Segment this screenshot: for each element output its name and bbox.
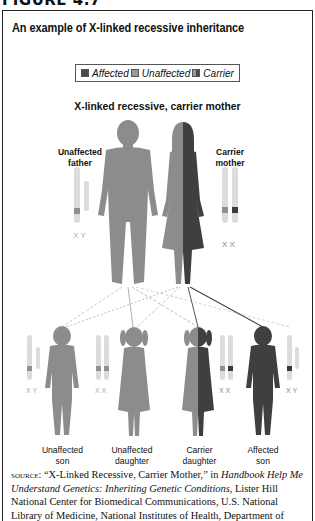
unaffected-son-figure	[45, 326, 79, 435]
unaffected-daughter-chromosomes	[96, 335, 109, 380]
affected-son-chromosomes	[287, 335, 299, 380]
child-label-unaffected-daughter: Unaffecteddaughter	[105, 444, 159, 466]
mother-label: Carriermother	[212, 146, 248, 168]
father-figure	[98, 120, 158, 284]
son1-chromosome-label: X Y	[26, 387, 37, 394]
source-quote: “X-Linked Recessive, Carrier Mother,” in	[41, 469, 221, 480]
father-chromosomes	[74, 167, 89, 223]
mother-figure	[162, 122, 204, 284]
child-label-carrier-daughter: Carrierdaughter	[175, 444, 225, 466]
child-label-unaffected-son: Unaffectedson	[38, 444, 88, 466]
father-chromosome-label: X Y	[73, 231, 86, 240]
carrier-daughter-chromosomes	[220, 335, 233, 380]
father-label: Unaffectedfather	[58, 146, 103, 168]
daughter2-chromosome-label: X X	[219, 387, 231, 394]
source-citation: source: “X-Linked Recessive, Carrier Mot…	[11, 468, 311, 521]
unaffected-son-chromosomes	[27, 335, 40, 380]
unaffected-daughter-figure	[118, 327, 150, 436]
affected-son-figure	[246, 326, 280, 435]
inheritance-diagram: X Y X X X Y X X	[0, 0, 315, 470]
mother-chromosomes	[222, 167, 238, 223]
source-prefix: source:	[11, 469, 41, 480]
carrier-daughter-figure	[182, 327, 214, 436]
son2-chromosome-label: X Y	[286, 387, 297, 394]
mother-chromosome-label: X X	[222, 240, 236, 249]
child-label-affected-son: Affectedson	[241, 444, 286, 466]
daughter1-chromosome-label: X X	[95, 387, 107, 394]
inheritance-lines	[62, 287, 290, 327]
